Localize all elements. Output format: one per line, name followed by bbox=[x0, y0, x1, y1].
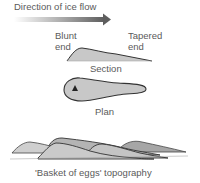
topography-caption: 'Basket of eggs' topography bbox=[35, 167, 152, 178]
diagram-graphics bbox=[0, 0, 200, 183]
tapered-end-label: Tapered end bbox=[128, 30, 162, 52]
plan-caption: Plan bbox=[95, 106, 114, 117]
plan-shape bbox=[64, 78, 146, 101]
flow-arrow-icon bbox=[14, 14, 111, 26]
blunt-end-label: Blunt end bbox=[55, 30, 77, 52]
basket-of-eggs-shapes bbox=[10, 138, 188, 159]
section-caption: Section bbox=[90, 63, 122, 74]
